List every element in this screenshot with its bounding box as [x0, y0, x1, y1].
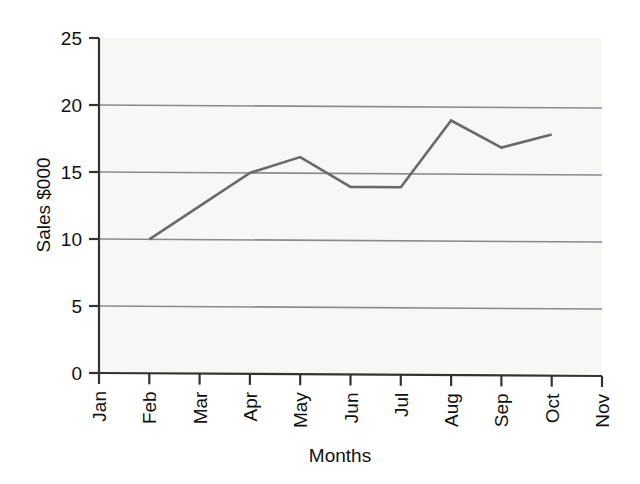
- x-tick-label-group: JanFebMarAprMayJunJulAugSepOctNov: [89, 391, 613, 428]
- x-tick-label: Jan: [89, 391, 110, 422]
- x-tick-label: Sep: [491, 393, 512, 427]
- x-axis-title: Months: [309, 445, 371, 466]
- x-tick-label: Aug: [441, 393, 462, 427]
- x-tick-label: Jun: [341, 393, 362, 424]
- y-tick-label: 10: [61, 229, 82, 250]
- y-tick-label: 5: [71, 296, 82, 317]
- y-tick-label: 15: [61, 162, 82, 183]
- x-tick-label: May: [290, 392, 311, 428]
- y-tick-label: 0: [71, 363, 82, 384]
- line-chart-figure: 0510152025 JanFebMarAprMayJunJulAugSepOc…: [0, 0, 640, 484]
- y-tick-group: [89, 38, 99, 373]
- x-tick-label: Oct: [542, 393, 563, 423]
- chart-canvas: 0510152025 JanFebMarAprMayJunJulAugSepOc…: [0, 0, 640, 484]
- x-tick-label: Apr: [240, 391, 261, 421]
- y-tick-label: 20: [61, 95, 82, 116]
- x-tick-label: Feb: [139, 391, 160, 424]
- y-tick-label: 25: [61, 28, 82, 49]
- x-tick-label: Jul: [391, 393, 412, 417]
- x-tick-label: Nov: [592, 394, 613, 428]
- y-tick-label-group: 0510152025: [61, 28, 82, 384]
- y-axis-title: Sales $000: [33, 157, 54, 252]
- x-tick-label: Mar: [190, 391, 211, 424]
- plot-area-background: [99, 38, 602, 373]
